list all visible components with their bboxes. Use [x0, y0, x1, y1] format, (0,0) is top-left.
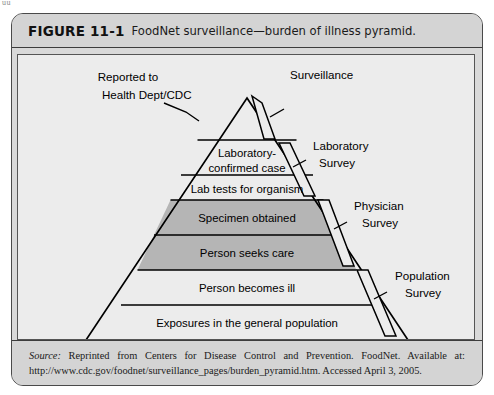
source-label: Source:	[29, 350, 61, 361]
tier-label-laboratory-confirmed-line2: confirmed case	[208, 162, 285, 174]
tier-label-reported-line2: Health Dept/CDC	[102, 88, 192, 101]
bracket-label-physician-survey-line2: Survey	[362, 216, 398, 229]
source-body: Reprinted from Centers for Disease Contr…	[29, 350, 465, 376]
bracket-label-population-survey-line1: Population	[395, 269, 450, 282]
tier-label-exposures-general-population: Exposures in the general population	[156, 317, 338, 329]
bracket-label-laboratory-survey-line2: Survey	[319, 156, 355, 169]
figure-number-label: FIGURE 11-1	[28, 23, 125, 39]
pyramid-plot-panel: Reported to Health Dept/CDC Laboratory- …	[17, 54, 475, 340]
leader-line-reported-to-health-dept	[164, 103, 199, 121]
bracket-label-physician-survey-line1: Physician	[354, 199, 404, 212]
tier-label-laboratory-confirmed-line1: Laboratory-	[218, 147, 276, 159]
figure-frame: FIGURE 11-1 FoodNet surveillance—burden …	[11, 13, 483, 386]
bracket-label-laboratory-survey-line1: Laboratory	[313, 139, 369, 152]
bracket-label-population-survey-line2: Survey	[405, 286, 441, 299]
bracket-ribbon-population-survey	[357, 270, 396, 336]
scan-artifact-text: uu	[2, 0, 11, 7]
figure-caption-text: FoodNet surveillance—burden of illness p…	[132, 24, 416, 38]
bracket-label-surveillance: Surveillance	[290, 68, 353, 81]
figure-caption-bar: FIGURE 11-1 FoodNet surveillance—burden …	[12, 14, 482, 48]
tier-label-lab-tests-for-organism: Lab tests for organism	[191, 183, 304, 195]
tier-label-specimen-obtained: Specimen obtained	[198, 212, 296, 224]
tier-label-person-becomes-ill: Person becomes ill	[199, 282, 295, 294]
tier-label-reported-line1: Reported to	[98, 70, 159, 83]
tier-label-person-seeks-care: Person seeks care	[200, 247, 294, 259]
figure-source-text: Source: Reprinted from Centers for Disea…	[29, 348, 465, 378]
figure-source-bar: Source: Reprinted from Centers for Disea…	[12, 340, 482, 385]
bracket-tick-surveillance	[270, 109, 284, 117]
burden-of-illness-pyramid: Reported to Health Dept/CDC Laboratory- …	[18, 55, 475, 340]
bracket-ribbon-surveillance	[252, 96, 275, 139]
